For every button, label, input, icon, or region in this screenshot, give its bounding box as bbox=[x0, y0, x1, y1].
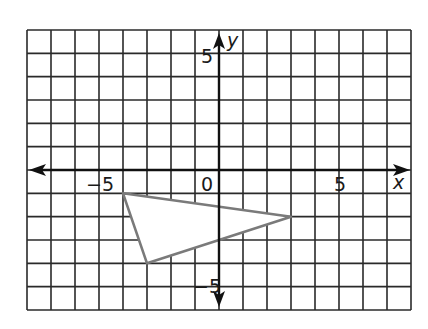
triangle bbox=[123, 193, 291, 263]
x-axis-label: x bbox=[392, 171, 405, 193]
y-axis-label: y bbox=[226, 29, 239, 51]
coordinate-plane: x y −5 0 5 5 −5 bbox=[0, 0, 428, 329]
x-tick-zero: 0 bbox=[201, 173, 213, 195]
y-tick-neg5: −5 bbox=[193, 275, 221, 297]
y-tick-pos5: 5 bbox=[201, 45, 213, 67]
x-tick-neg5: −5 bbox=[86, 173, 114, 195]
x-tick-pos5: 5 bbox=[334, 173, 346, 195]
